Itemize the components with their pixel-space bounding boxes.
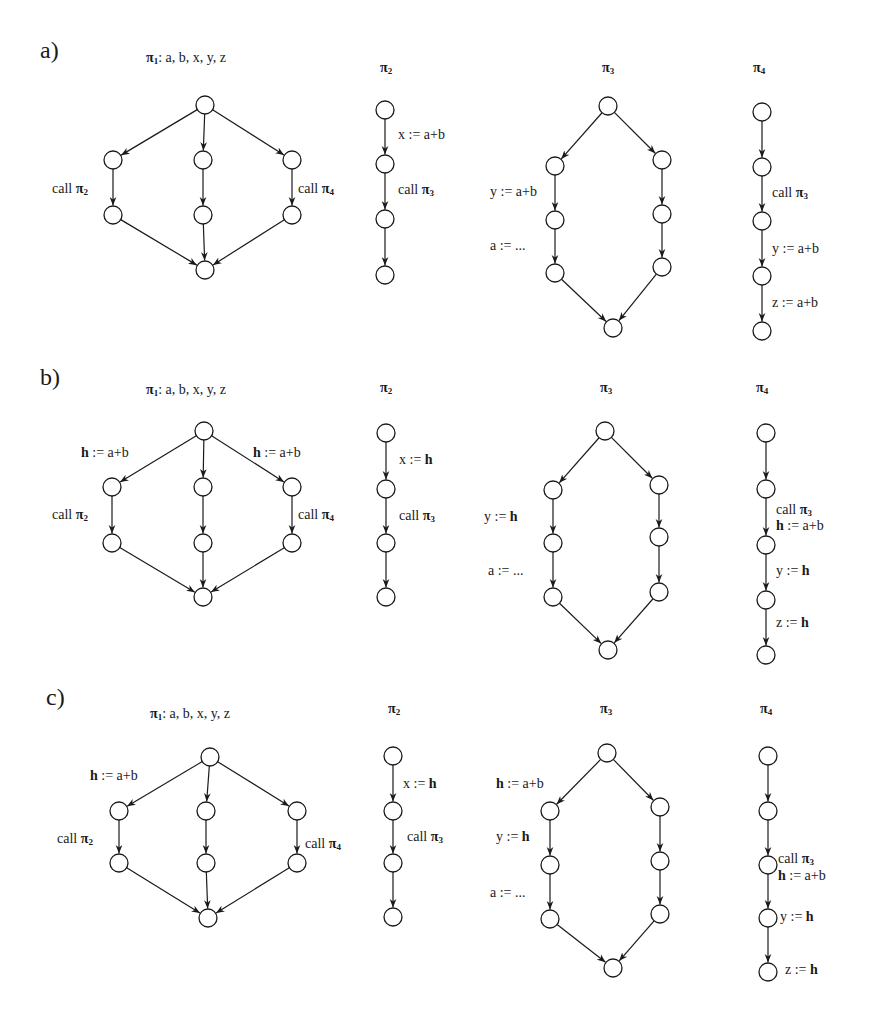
graph-node bbox=[377, 480, 395, 498]
edge-arrow bbox=[619, 274, 656, 321]
panel-a: a)π1: a, b, x, y, zcall π2call π4π2x := … bbox=[40, 37, 819, 340]
graph-node bbox=[757, 591, 775, 609]
procedure-pi3: π3y := a+ba := ... bbox=[490, 60, 671, 337]
graph-node bbox=[653, 205, 671, 223]
edge-label: x := h bbox=[399, 452, 433, 467]
edge-label: y := a+b bbox=[490, 184, 537, 199]
procedure-title: π4 bbox=[753, 60, 766, 76]
edge-label: h := a+b bbox=[90, 768, 138, 783]
procedure-title: π1: a, b, x, y, z bbox=[150, 706, 230, 722]
procedure-pi4: π4call π3y := a+bz := a+b bbox=[753, 60, 819, 340]
procedure-title: π2 bbox=[380, 380, 393, 396]
edge-label: call π4 bbox=[298, 507, 334, 523]
graph-node bbox=[288, 802, 306, 820]
graph-node bbox=[757, 424, 775, 442]
graph-node bbox=[753, 267, 771, 285]
edge-arrow bbox=[120, 548, 195, 593]
edge-arrow bbox=[127, 868, 200, 913]
edge-arrow bbox=[559, 438, 599, 483]
procedure-pi3: π3y := ha := ... bbox=[484, 380, 668, 659]
graph-node bbox=[546, 211, 564, 229]
edge-label: call π4 bbox=[298, 181, 334, 197]
edge-label: z := h bbox=[776, 615, 809, 630]
edges bbox=[550, 759, 660, 962]
graph-node bbox=[546, 264, 564, 282]
edge-arrow bbox=[121, 220, 197, 266]
edge-label: call π4 bbox=[305, 836, 341, 852]
edge-arrow bbox=[121, 110, 197, 156]
graph-node bbox=[759, 747, 777, 765]
edge-label: h := a+b bbox=[496, 776, 544, 791]
graph-node bbox=[753, 158, 771, 176]
edge-label: a := ... bbox=[490, 238, 526, 253]
nodes bbox=[541, 744, 669, 977]
edge-label: y := a+b bbox=[772, 241, 819, 256]
graph-node bbox=[376, 155, 394, 173]
edge-label: h := a+b bbox=[776, 518, 824, 533]
graph-node bbox=[384, 747, 402, 765]
graph-node bbox=[651, 852, 669, 870]
graph-node bbox=[199, 909, 217, 927]
edge-label: z := a+b bbox=[772, 295, 818, 310]
edge-label: call π3 bbox=[407, 829, 443, 845]
graph-node bbox=[283, 478, 301, 496]
procedure-pi2: π2x := hcall π3 bbox=[384, 701, 443, 926]
procedure-pi1: π1: a, b, x, y, zh := a+bh := a+bcall π2… bbox=[52, 382, 334, 606]
procedure-title: π4 bbox=[760, 701, 773, 717]
graph-node bbox=[195, 422, 213, 440]
edge-label: y := h bbox=[484, 509, 518, 524]
graph-node bbox=[194, 151, 212, 169]
procedure-pi4: π4call π3h := a+by := hz := h bbox=[756, 380, 824, 664]
edge-arrow bbox=[557, 925, 605, 963]
graph-node bbox=[650, 476, 668, 494]
procedure-pi2: π2x := a+bcall π3 bbox=[376, 60, 445, 284]
graph-node bbox=[759, 909, 777, 927]
graph-node bbox=[104, 206, 122, 224]
graph-node bbox=[599, 641, 617, 659]
graph-node bbox=[196, 96, 214, 114]
panels-layer: a)π1: a, b, x, y, zcall π2call π4π2x := … bbox=[40, 37, 826, 981]
edge-arrow bbox=[611, 437, 652, 478]
procedure-pi1: π1: a, b, x, y, zh := a+bcall π2call π4 bbox=[57, 706, 341, 927]
edges bbox=[119, 762, 297, 913]
edge-label: y := h bbox=[776, 563, 810, 578]
edge-arrow bbox=[562, 279, 607, 321]
edge-arrow bbox=[206, 872, 207, 909]
graph-node bbox=[288, 854, 306, 872]
graph-node bbox=[197, 854, 215, 872]
nodes bbox=[110, 748, 306, 927]
edge-arrow bbox=[120, 436, 196, 482]
graph-node bbox=[194, 206, 212, 224]
edge-label: z := h bbox=[785, 962, 818, 977]
edge-arrow bbox=[203, 440, 204, 478]
edge-label: h := a+b bbox=[253, 445, 301, 460]
panel-label: b) bbox=[40, 364, 60, 390]
graph-node bbox=[604, 319, 622, 337]
procedure-title: π3 bbox=[600, 380, 613, 396]
graph-node bbox=[753, 322, 771, 340]
graph-node bbox=[377, 424, 395, 442]
graph-node bbox=[544, 534, 562, 552]
panel-label: a) bbox=[40, 37, 59, 63]
graph-node bbox=[541, 802, 559, 820]
graph-node bbox=[598, 744, 616, 762]
edges bbox=[553, 437, 659, 643]
edge-arrow bbox=[216, 868, 289, 913]
graph-node bbox=[546, 157, 564, 175]
edge-arrow bbox=[561, 113, 602, 159]
panel-c: c)π1: a, b, x, y, zh := a+bcall π2call π… bbox=[46, 684, 826, 981]
edge-label: call π3 bbox=[776, 502, 812, 518]
graph-node bbox=[194, 478, 212, 496]
graph-node bbox=[376, 101, 394, 119]
edge-label: h := a+b bbox=[81, 445, 129, 460]
edge-arrow bbox=[613, 759, 653, 800]
nodes bbox=[544, 422, 668, 659]
graph-node bbox=[110, 854, 128, 872]
program-flow-graphs-figure: a)π1: a, b, x, y, zcall π2call π4π2x := … bbox=[0, 0, 877, 1020]
edge-arrow bbox=[213, 220, 284, 265]
procedure-pi4: π4call π3h := a+by := hz := h bbox=[759, 701, 826, 981]
edge-label: call π2 bbox=[57, 831, 93, 847]
graph-node bbox=[110, 802, 128, 820]
edge-arrow bbox=[614, 112, 655, 153]
edge-label: call π3 bbox=[398, 182, 434, 198]
